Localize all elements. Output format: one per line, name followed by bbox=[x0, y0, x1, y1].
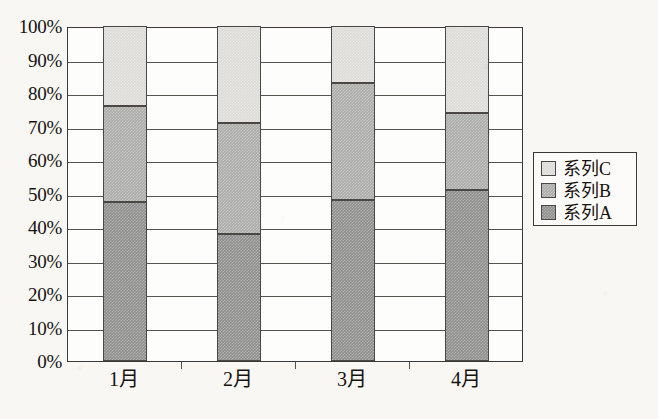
bar-group bbox=[445, 26, 489, 361]
bar-segment bbox=[217, 26, 261, 123]
y-tick-label: 30% bbox=[4, 252, 62, 271]
plot-area bbox=[67, 27, 523, 362]
y-tick-label: 50% bbox=[4, 185, 62, 204]
bar-group bbox=[331, 26, 375, 361]
legend-label: 系列B bbox=[563, 181, 611, 201]
y-tick-label: 80% bbox=[4, 84, 62, 103]
bar-segment bbox=[445, 113, 489, 190]
y-axis: 100%90%80%70%60%50%40%30%20%10%0% bbox=[4, 27, 62, 362]
legend-item: 系列A bbox=[541, 202, 630, 223]
bar-segment bbox=[217, 234, 261, 361]
legend-label: 系列C bbox=[563, 159, 611, 179]
bar-group bbox=[103, 26, 147, 361]
bar-segment bbox=[103, 106, 147, 201]
legend-item: 系列B bbox=[541, 180, 630, 201]
bar-segment bbox=[331, 83, 375, 200]
legend-swatch-series-a bbox=[541, 205, 556, 220]
x-tick-mark bbox=[409, 362, 410, 369]
bars-layer bbox=[68, 28, 522, 361]
legend-item: 系列C bbox=[541, 158, 630, 179]
y-tick-label: 60% bbox=[4, 151, 62, 170]
y-tick-label: 100% bbox=[4, 17, 62, 36]
x-axis: 1月2月3月4月 bbox=[67, 366, 523, 398]
bar-group bbox=[217, 26, 261, 361]
x-tick-mark bbox=[181, 362, 182, 369]
x-tick-mark bbox=[295, 362, 296, 369]
chart-figure: 100%90%80%70%60%50%40%30%20%10%0% 1月2月3月… bbox=[0, 0, 658, 419]
bar-segment bbox=[331, 26, 375, 83]
bar-segment bbox=[217, 123, 261, 234]
bar-segment bbox=[445, 190, 489, 361]
x-tick-label: 1月 bbox=[67, 366, 181, 392]
x-tick-label: 2月 bbox=[181, 366, 295, 392]
y-tick-label: 90% bbox=[4, 51, 62, 70]
y-tick-label: 0% bbox=[4, 352, 62, 371]
legend-swatch-series-b bbox=[541, 183, 556, 198]
x-tick-label: 4月 bbox=[409, 366, 523, 392]
bar-segment bbox=[445, 26, 489, 113]
legend-swatch-series-c bbox=[541, 161, 556, 176]
legend-label: 系列A bbox=[563, 203, 612, 223]
bar-segment bbox=[103, 26, 147, 106]
bar-segment bbox=[331, 200, 375, 361]
y-tick-label: 70% bbox=[4, 118, 62, 137]
y-tick-label: 10% bbox=[4, 319, 62, 338]
y-tick-label: 40% bbox=[4, 218, 62, 237]
y-tick-label: 20% bbox=[4, 285, 62, 304]
bar-segment bbox=[103, 202, 147, 361]
x-tick-label: 3月 bbox=[295, 366, 409, 392]
legend: 系列C系列B系列A bbox=[533, 152, 637, 226]
